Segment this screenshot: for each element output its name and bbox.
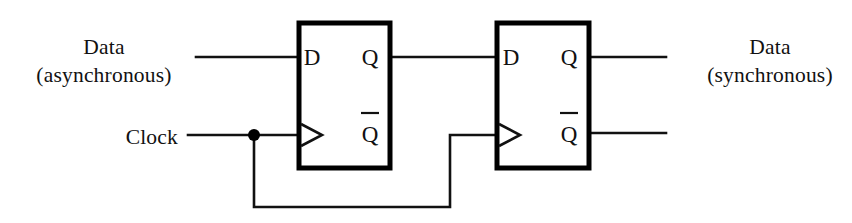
ff2-q-pin-label: Q (561, 45, 578, 70)
ff1-q-pin-label: Q (362, 45, 379, 70)
data-synchronous-label: Data (synchronous) (690, 34, 850, 89)
ff2-qbar-pin-label: Q (561, 122, 578, 147)
ff1-d-pin-label: D (304, 45, 321, 70)
ff2-d-pin-label: D (503, 45, 520, 70)
data-async-line2: (asynchronous) (14, 62, 194, 90)
clock-label: Clock (88, 124, 178, 152)
ff1-qbar-pin-label: Q (362, 122, 379, 147)
data-sync-line1: Data (690, 34, 850, 62)
data-sync-line2: (synchronous) (690, 62, 850, 90)
data-async-line1: Data (14, 34, 194, 62)
data-asynchronous-label: Data (asynchronous) (14, 34, 194, 89)
clock-junction-dot (248, 129, 260, 141)
circuit-diagram: D Q Q D Q Q Data (asynchronous) Clock Da… (0, 0, 852, 223)
